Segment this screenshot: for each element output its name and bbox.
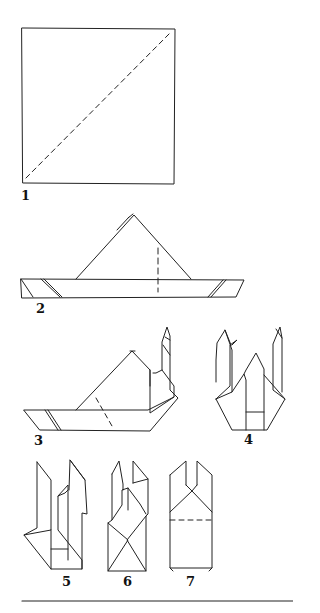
step-label-6: 6 [123,575,132,588]
step-3-figure [24,327,178,431]
step-label-2: 2 [36,302,45,315]
step-1-figure [22,28,175,184]
step-label-5: 5 [62,575,71,588]
step-label-3: 3 [34,434,43,447]
step-6-figure [108,461,148,571]
step-label-1: 1 [21,189,30,202]
step-5-figure [24,460,87,569]
step-7-figure [170,461,212,571]
step-label-7: 7 [186,575,195,588]
step-4-figure [216,327,285,430]
step-label-4: 4 [244,433,253,446]
step-2-figure [21,214,244,298]
